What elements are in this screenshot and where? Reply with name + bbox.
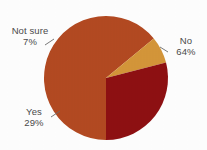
- pie-label-not-sure: Not sure 7%: [4, 25, 56, 47]
- pie-label-no-percent: 64%: [170, 46, 202, 57]
- pie-label-not-sure-name: Not sure: [4, 25, 56, 36]
- pie-label-yes-percent: 29%: [17, 117, 51, 128]
- pie-label-not-sure-percent: 7%: [4, 36, 56, 47]
- pie-label-no: No 64%: [170, 35, 202, 57]
- pie-label-no-name: No: [170, 35, 202, 46]
- pie-label-yes: Yes 29%: [17, 106, 51, 128]
- pie-label-yes-name: Yes: [17, 106, 51, 117]
- pie-chart: Not sure 7% No 64% Yes 29%: [0, 0, 207, 150]
